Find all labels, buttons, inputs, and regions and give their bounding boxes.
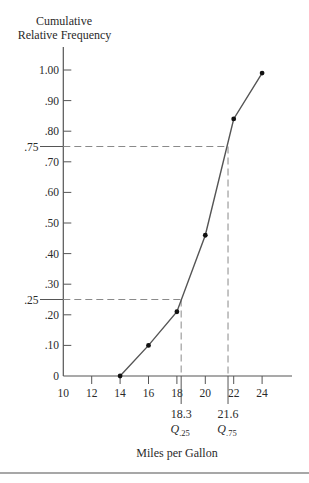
quartile-subscript: .25 [179,428,190,438]
x-tick-label: 20 [200,387,212,399]
x-tick-label: 24 [256,387,268,399]
y-axis-title-line2: Relative Frequency [18,28,112,42]
x-tick-label: 16 [143,387,155,399]
x-tick-label: 14 [114,387,126,399]
y-tick-label: .70 [45,156,60,168]
quartile-symbol: Q [217,422,226,436]
y-tick-label: .50 [45,217,60,229]
quartile-symbol-label: Q.25 [171,422,190,438]
y-tick-label: .30 [45,278,60,290]
x-tick-label: 22 [228,387,240,399]
data-point-marker [146,343,151,348]
data-point-marker [175,309,180,314]
quartile-y-label: .75 [24,141,39,153]
y-tick-label: .90 [45,95,60,107]
quartile-y-label: .25 [24,294,39,306]
data-point-marker [260,71,265,76]
y-tick-label: .10 [45,339,60,351]
y-axis-title-line1: Cumulative [36,14,92,28]
y-tick-label: .40 [45,248,60,260]
x-tick-label: 12 [86,387,98,399]
quartile-value-label: 21.6 [218,407,239,421]
quartile-subscript: .75 [226,428,237,438]
x-axis-title: Miles per Gallon [136,446,217,460]
ogive-chart: Cumulative Relative Frequency 0.10.20.30… [0,0,309,483]
y-tick-label: 0 [53,370,59,382]
data-point-marker [118,374,123,379]
y-tick-label: 1.00 [39,64,59,76]
y-tick-label: .60 [45,186,60,198]
y-tick-label: .20 [45,309,60,321]
ogive-figure: Cumulative Relative Frequency 0.10.20.30… [0,0,309,483]
y-tick-label: .80 [45,125,60,137]
ogive-line [120,73,262,376]
quartile-symbol-label: Q.75 [217,422,236,438]
quartile-symbol: Q [171,422,180,436]
quartile-value-label: 18.3 [171,407,192,421]
x-tick-label: 10 [58,387,70,399]
plot-area: 0.10.20.30.40.50.60.70.80.901.0010121416… [24,47,292,438]
data-point-marker [203,233,208,238]
data-point-marker [231,117,236,122]
